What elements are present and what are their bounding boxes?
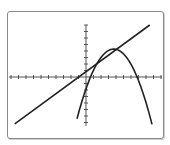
graph-plot xyxy=(0,0,170,145)
parabola-function-curve xyxy=(77,49,152,124)
y-axis xyxy=(84,25,88,126)
linear-function-curve xyxy=(15,25,150,124)
